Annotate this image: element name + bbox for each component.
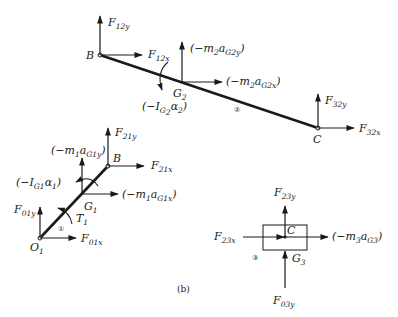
- f12x-label: F12x: [147, 48, 170, 63]
- m1aG1y-label: (−m1aG1y): [51, 144, 106, 159]
- ig2-moment-label: (−IG2α2): [142, 100, 187, 117]
- f21y-label: F21y: [114, 126, 137, 141]
- m3aG3-label: (−m3aG3): [332, 230, 382, 245]
- slider-3-number: ③: [252, 254, 258, 262]
- link-2: B F12y F12x (−m2aG2y) (−m2aG2x) G2 (−IG2…: [85, 16, 381, 146]
- g3-label: G3: [292, 252, 306, 267]
- m2aG2y-label: (−m2aG2y): [190, 42, 245, 57]
- t1-label: T1: [76, 212, 88, 227]
- link-2-number: ②: [234, 106, 240, 114]
- f21x-label: F21x: [150, 159, 173, 174]
- free-body-diagram: B F12y F12x (−m2aG2y) (−m2aG2x) G2 (−IG2…: [0, 0, 398, 317]
- link-1: F21y B F21x (−m1aG1y) (−m1aG1x) G1 (−IG1…: [13, 126, 177, 256]
- m1aG1x-label: (−m1aG1x): [122, 188, 177, 203]
- f23y-label: F23y: [273, 186, 296, 201]
- g1-label: G1: [84, 200, 98, 215]
- point-c-label: C: [313, 133, 322, 146]
- f32y-label: F32y: [324, 94, 347, 109]
- f01y-label: F01y: [13, 203, 36, 218]
- point-b-label: B: [85, 49, 94, 62]
- f12y-label: F12y: [107, 16, 130, 31]
- figure-caption: (b): [177, 284, 190, 294]
- f32x-label: F32x: [358, 122, 381, 137]
- f03y-label: F03y: [272, 294, 295, 309]
- point-b-lower-label: B: [112, 152, 121, 165]
- f23x-label: F23x: [213, 230, 236, 245]
- link-1-number: ①: [58, 225, 64, 233]
- m2aG2x-label: (−m2aG2x): [226, 75, 281, 90]
- point-c-slider-label: C: [287, 224, 296, 237]
- point-o1-label: O1: [30, 241, 44, 256]
- ig1-moment-label: (−IG1α1): [16, 176, 61, 191]
- f01x-label: F01x: [80, 232, 103, 247]
- slider-3: C F23y F23x (−m3aG3) F03y G3 ③: [213, 186, 382, 309]
- link-2-bar: [100, 55, 318, 128]
